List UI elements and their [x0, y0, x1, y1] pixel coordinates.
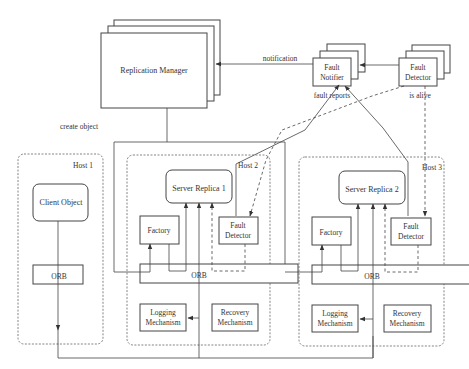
fault-notifier: Fault Notifier [313, 44, 365, 86]
svg-text:ORB: ORB [364, 272, 379, 281]
host-3-label: Host 3 [422, 163, 442, 172]
svg-text:Mechanism: Mechanism [146, 318, 181, 327]
host-1-label: Host 1 [73, 161, 93, 170]
svg-text:Server Replica 1: Server Replica 1 [172, 184, 225, 193]
fault-tolerance-architecture-diagram: Replication Manager Fault Notifier Fault… [0, 0, 469, 369]
host-1: Host 1 Client Object ORB [18, 154, 103, 344]
is-alive-label: is alive [409, 91, 431, 100]
host-2: Host 2 Server Replica 1 Factory Fault De… [127, 155, 298, 345]
svg-text:Factory: Factory [320, 228, 343, 237]
svg-text:Mechanism: Mechanism [390, 319, 425, 328]
svg-text:Recovery: Recovery [221, 308, 250, 317]
svg-text:Detector: Detector [398, 232, 424, 241]
svg-text:Fault: Fault [403, 222, 419, 231]
host-3: Host 3 Server Replica 2 Factory Fault De… [299, 157, 469, 346]
svg-text:Factory: Factory [148, 226, 171, 235]
svg-text:Detector: Detector [225, 231, 251, 240]
host-3-orb [312, 265, 469, 284]
svg-text:Mechanism: Mechanism [218, 318, 253, 327]
svg-text:ORB: ORB [51, 272, 66, 281]
svg-text:Logging: Logging [150, 308, 176, 317]
svg-text:Notifier: Notifier [320, 73, 344, 82]
replication-manager: Replication Manager [101, 20, 220, 108]
svg-text:Recovery: Recovery [393, 309, 422, 318]
host-2-label: Host 2 [238, 161, 258, 170]
svg-text:Fault: Fault [230, 221, 246, 230]
svg-text:Fault: Fault [410, 63, 426, 72]
notification-label: notification [263, 54, 298, 63]
replication-manager-label: Replication Manager [120, 66, 188, 75]
svg-text:Server Replica 2: Server Replica 2 [345, 185, 398, 194]
fault-reports-label: fault reports [314, 91, 351, 100]
fault-detector-top: Fault Detector [399, 45, 450, 86]
svg-text:Client Object: Client Object [40, 198, 84, 207]
svg-text:Logging: Logging [322, 309, 348, 318]
create-object-label: create object [60, 122, 99, 131]
svg-text:Mechanism: Mechanism [318, 319, 353, 328]
host-2-orb [140, 264, 298, 283]
svg-text:Fault: Fault [324, 63, 340, 72]
svg-text:Detector: Detector [405, 73, 431, 82]
